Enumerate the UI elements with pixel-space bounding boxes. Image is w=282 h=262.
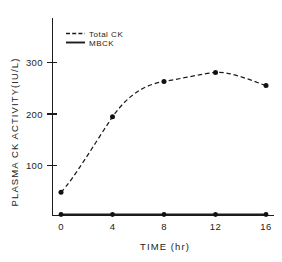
x-tick-label-12: 12 — [210, 221, 221, 232]
x-tick-label-0: 0 — [58, 221, 64, 232]
data-point-mbck-0h — [59, 212, 64, 217]
y-tick-label-100: 100 — [26, 160, 43, 171]
y-tick-label-200: 200 — [26, 109, 43, 120]
data-point-total-ck-0h — [59, 190, 64, 195]
data-point-total-ck-4h — [110, 114, 115, 119]
x-tick-label-4: 4 — [110, 221, 116, 232]
legend-label-mbck: MBCK — [89, 39, 114, 48]
y-axis-title: PLASMA CK ACTIVITY(IU/L) — [9, 58, 20, 207]
data-point-total-ck-16h — [264, 83, 269, 88]
data-point-mbck-4h — [110, 212, 115, 217]
data-point-mbck-16h — [264, 212, 269, 217]
data-point-total-ck-8h — [162, 79, 167, 84]
x-tick-label-16: 16 — [260, 221, 271, 232]
legend-label-total-ck: Total CK — [89, 30, 123, 39]
plot-background — [0, 0, 282, 262]
x-axis-title: TIME (hr) — [140, 241, 190, 252]
y-tick-label-300: 300 — [26, 57, 43, 68]
data-point-mbck-12h — [213, 212, 218, 217]
chart-figure: 300 200 100 0 4 8 12 16 TIME (hr) PLASMA… — [0, 0, 282, 262]
data-point-total-ck-12h — [213, 70, 218, 75]
plasma-ck-activity-line-chart: 300 200 100 0 4 8 12 16 TIME (hr) PLASMA… — [0, 0, 282, 262]
x-tick-label-8: 8 — [161, 221, 167, 232]
data-point-mbck-8h — [162, 212, 167, 217]
